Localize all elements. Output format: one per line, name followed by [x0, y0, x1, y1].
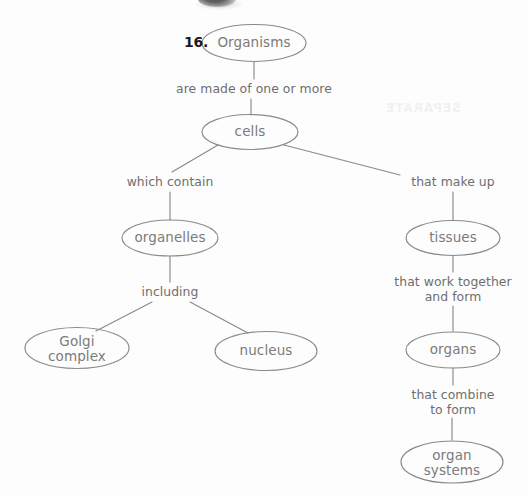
node-label-organs: organs — [393, 343, 513, 357]
node-label-nucleus: nucleus — [206, 344, 326, 358]
link-label-are-made-of-one-or-more: are made of one or more — [154, 82, 354, 97]
edge-cells-to-that-make-up — [284, 145, 400, 175]
node-label-organisms: Organisms — [194, 36, 314, 50]
link-label-that-work-together-and-form: that work together and form — [383, 275, 523, 304]
node-label-organ-systems: organ systems — [392, 448, 512, 477]
node-label-organelles: organelles — [110, 231, 230, 245]
diagram-canvas: SEPARATE 16. Organisms cells organelles … — [0, 0, 528, 496]
node-label-golgi-complex: Golgi complex — [17, 334, 137, 363]
bleed-through-ghost-text: SEPARATE — [385, 101, 461, 115]
edge-including-to-nucleus — [190, 302, 248, 333]
concept-map-svg — [0, 0, 528, 496]
edge-including-to-golgi — [96, 302, 152, 331]
link-label-which-contain: which contain — [110, 175, 230, 190]
link-label-including: including — [120, 285, 220, 300]
edge-cells-to-which-contain — [172, 145, 218, 172]
node-label-tissues: tissues — [393, 231, 513, 245]
node-label-cells: cells — [190, 125, 310, 139]
link-label-that-combine-to-form: that combine to form — [393, 388, 513, 417]
link-label-that-make-up: that make up — [393, 175, 513, 190]
